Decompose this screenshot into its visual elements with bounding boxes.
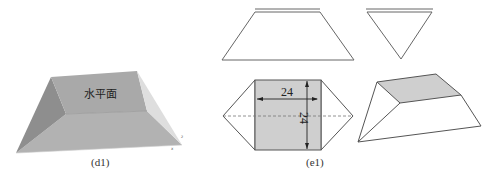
wireframe-edge [461, 95, 481, 126]
caption-d1: (d1) [91, 156, 110, 169]
trapezoid-view [222, 12, 354, 60]
triangle-view [367, 12, 432, 59]
axis-mark-z: z [181, 134, 183, 139]
net-left-triangle [223, 80, 255, 150]
wireframe-base-edge [358, 126, 481, 142]
height-dimension-label: 24 [297, 112, 311, 124]
wireframe-top-face [377, 74, 461, 103]
horizontal-plane-label: 水平面 [84, 88, 117, 101]
caption-e1: (e1) [306, 156, 324, 169]
net-right-triangle [321, 80, 353, 150]
width-dimension-label: 24 [281, 85, 293, 99]
axis-mark-x: x [171, 146, 174, 151]
figure-e1-front-view [222, 9, 354, 60]
figure-d1: 水平面 z x (d1) [16, 71, 183, 169]
figure-e1-wireframe [358, 74, 481, 142]
figure-e1-side-view [366, 9, 433, 59]
figure-e1-net: 24 24 (e1) [223, 80, 353, 169]
figure-canvas: 水平面 z x (d1) 24 24 (e1) [0, 0, 498, 180]
